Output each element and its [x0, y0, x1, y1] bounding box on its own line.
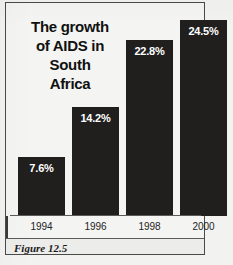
scanned-figure-page: 7.6% 14.2% 22.8% 24.5% The growth of AID… — [0, 0, 233, 265]
bar-1994: 7.6% — [18, 157, 65, 216]
figure-caption-strip: Figure 12.5 — [6, 238, 204, 254]
x-tick-label-2000: 2000 — [180, 221, 227, 232]
bar-1998: 22.8% — [126, 40, 173, 216]
bar-value-2000: 24.5% — [180, 25, 227, 37]
chart-title-line-1: The growth — [12, 17, 128, 36]
bar-chart-plot-area: 7.6% 14.2% 22.8% 24.5% The growth of AID… — [6, 3, 204, 216]
chart-title-line-2: of AIDS in — [12, 36, 128, 55]
bar-1996: 14.2% — [72, 107, 119, 216]
figure-frame: 7.6% 14.2% 22.8% 24.5% The growth of AID… — [5, 2, 205, 255]
x-axis-tick-labels: 1994 1996 1998 2000 — [6, 217, 204, 238]
bar-value-1994: 7.6% — [18, 162, 65, 174]
bar-value-1998: 22.8% — [126, 45, 173, 57]
x-axis-line — [10, 215, 201, 216]
x-tick-label-1998: 1998 — [126, 221, 173, 232]
figure-caption: Figure 12.5 — [14, 242, 67, 254]
chart-title-line-3: South — [12, 55, 128, 74]
bar-2000: 24.5% — [180, 20, 227, 216]
chart-title: The growth of AIDS in South Africa — [12, 17, 128, 93]
x-tick-label-1996: 1996 — [72, 221, 119, 232]
x-tick-label-1994: 1994 — [18, 221, 65, 232]
chart-title-line-4: Africa — [12, 74, 128, 93]
bar-value-1996: 14.2% — [72, 112, 119, 124]
